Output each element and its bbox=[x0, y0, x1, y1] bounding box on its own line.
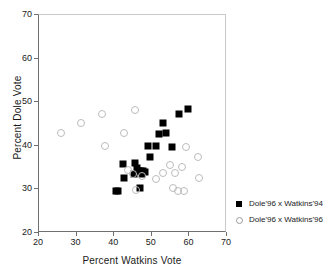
x-tick-mark bbox=[151, 232, 152, 236]
data-point bbox=[147, 154, 154, 161]
data-point bbox=[166, 161, 174, 169]
open-circle-icon bbox=[233, 217, 245, 224]
data-point bbox=[178, 163, 186, 171]
data-point bbox=[115, 187, 122, 194]
x-axis-label: Percent Watkins Vote bbox=[38, 255, 226, 266]
legend-item-dole96-watkins96[interactable]: Dole'96 x Watkins'96 bbox=[233, 216, 323, 224]
x-tick-label: 40 bbox=[108, 238, 118, 247]
data-point bbox=[77, 119, 85, 127]
x-tick-mark bbox=[38, 232, 39, 236]
y-tick-mark bbox=[34, 101, 38, 102]
data-point bbox=[180, 187, 188, 195]
data-point bbox=[160, 120, 167, 127]
x-tick-label: 30 bbox=[71, 238, 81, 247]
data-point bbox=[162, 129, 169, 136]
data-point bbox=[153, 142, 160, 149]
y-tick-mark bbox=[34, 14, 38, 15]
data-point bbox=[176, 110, 183, 117]
data-point bbox=[132, 186, 140, 194]
legend-label: Dole'96 x Watkins'94 bbox=[249, 200, 323, 208]
y-tick-mark bbox=[34, 188, 38, 189]
chart-legend: Dole'96 x Watkins'94 Dole'96 x Watkins'9… bbox=[233, 200, 323, 232]
data-point bbox=[168, 143, 175, 150]
data-point bbox=[129, 170, 137, 178]
data-point bbox=[159, 169, 167, 177]
data-point bbox=[194, 153, 202, 161]
x-tick-mark bbox=[76, 232, 77, 236]
filled-square-icon bbox=[233, 201, 245, 207]
data-point bbox=[131, 106, 139, 114]
y-tick-mark bbox=[34, 145, 38, 146]
y-tick-label: 20 bbox=[22, 228, 32, 237]
y-axis-label: Percent Dole Vote bbox=[12, 43, 23, 193]
data-point bbox=[138, 172, 146, 180]
scatter-chart-figure: 203040506070 203040506070 Percent Watkin… bbox=[0, 0, 329, 276]
data-point bbox=[101, 142, 109, 150]
y-tick-label: 30 bbox=[22, 184, 32, 193]
data-point bbox=[120, 129, 128, 137]
data-point bbox=[121, 175, 128, 182]
plot-area: 203040506070 203040506070 bbox=[38, 14, 226, 232]
y-tick-label: 70 bbox=[22, 10, 32, 19]
data-point bbox=[145, 143, 152, 150]
data-point bbox=[152, 175, 160, 183]
y-tick-mark bbox=[34, 58, 38, 59]
data-point bbox=[98, 110, 106, 118]
legend-label: Dole'96 x Watkins'96 bbox=[249, 216, 323, 224]
x-tick-mark bbox=[113, 232, 114, 236]
y-tick-label: 60 bbox=[22, 53, 32, 62]
legend-item-dole96-watkins94[interactable]: Dole'96 x Watkins'94 bbox=[233, 200, 323, 208]
data-point bbox=[195, 174, 203, 182]
x-tick-label: 20 bbox=[33, 238, 43, 247]
data-point bbox=[171, 169, 179, 177]
x-tick-label: 50 bbox=[146, 238, 156, 247]
y-tick-label: 50 bbox=[22, 97, 32, 106]
data-point bbox=[57, 129, 65, 137]
x-tick-label: 70 bbox=[221, 238, 231, 247]
data-point bbox=[185, 106, 192, 113]
y-tick-label: 40 bbox=[22, 140, 32, 149]
x-tick-mark bbox=[188, 232, 189, 236]
x-tick-label: 60 bbox=[183, 238, 193, 247]
x-tick-mark bbox=[226, 232, 227, 236]
data-point bbox=[182, 143, 190, 151]
